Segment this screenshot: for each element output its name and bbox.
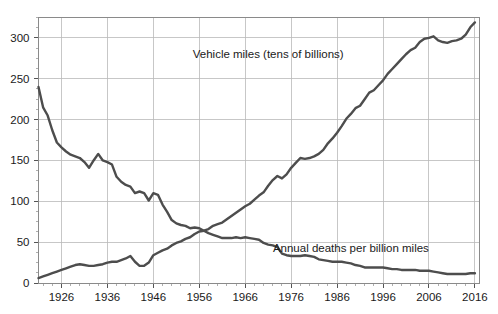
y-axis-tick-label: 100 — [10, 195, 29, 207]
x-axis-tick-label: 1926 — [49, 291, 75, 303]
data-series-lines — [39, 22, 475, 278]
x-axis-tick-label: 1966 — [232, 291, 258, 303]
series-label-vehicle-miles: Vehicle miles (tens of billions) — [193, 48, 344, 60]
series-label-annual-deaths: Annual deaths per billion miles — [273, 242, 429, 254]
y-axis-tick-label: 150 — [10, 154, 29, 166]
y-axis-tick-labels: 050100150200250300 — [10, 32, 29, 289]
x-axis-tick-label: 1986 — [324, 291, 350, 303]
y-axis-tick-label: 250 — [10, 73, 29, 85]
y-axis-tick-label: 0 — [23, 277, 29, 289]
x-axis-tick-label: 1956 — [186, 291, 212, 303]
y-axis-tick-label: 200 — [10, 114, 29, 126]
chart-container: 050100150200250300 192619361946195619661… — [0, 0, 498, 314]
x-axis-tick-label: 2006 — [416, 291, 442, 303]
x-axis-tick-label: 1936 — [95, 291, 121, 303]
x-axis-tick-label: 1996 — [370, 291, 396, 303]
x-axis-tick-labels: 1926193619461956196619761986199620062016 — [49, 291, 488, 303]
line-chart: 050100150200250300 192619361946195619661… — [0, 0, 498, 314]
y-axis-tick-label: 300 — [10, 32, 29, 44]
x-axis-tick-label: 2016 — [462, 291, 488, 303]
y-axis-tick-label: 50 — [17, 236, 30, 248]
x-axis-tick-label: 1946 — [141, 291, 167, 303]
x-axis-tick-label: 1976 — [278, 291, 304, 303]
